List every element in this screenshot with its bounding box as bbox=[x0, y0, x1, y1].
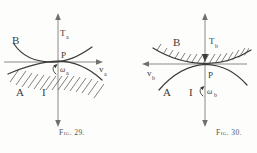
contact-point-label-29: P bbox=[61, 50, 66, 60]
figure-29-panel: B A P T a v a ω a I Fig. 29. bbox=[0, 0, 128, 153]
horizontal-axis-label-sub-29: a bbox=[104, 71, 107, 77]
angular-velocity-label-30: ω b bbox=[200, 86, 217, 98]
horizontal-axis-arrow-left-icon-30 bbox=[142, 61, 149, 67]
figure-29-drawing: B A P T a v a ω a I bbox=[0, 0, 128, 132]
omega-arrow-head-30 bbox=[200, 86, 204, 90]
vertical-axis-label-30: T b bbox=[209, 36, 218, 49]
horizontal-axis-label-sub-30: b bbox=[152, 75, 155, 81]
vertical-axis-arrow-down-icon-30 bbox=[202, 120, 208, 127]
omega-symbol-30: ω bbox=[207, 87, 212, 96]
figure-30-caption: Fig. 30. bbox=[129, 128, 257, 137]
omega-arrow-head-29 bbox=[53, 64, 57, 68]
curve-b-29 bbox=[14, 44, 92, 62]
figure-29-caption: Fig. 29. bbox=[0, 128, 136, 137]
hatched-region-30 bbox=[151, 44, 251, 70]
horizontal-axis-label-30: v b bbox=[147, 68, 155, 81]
angular-velocity-label-29: ω a bbox=[53, 64, 69, 76]
vertical-axis-arrow-up-icon bbox=[55, 13, 61, 20]
contact-point-label-30: P bbox=[208, 70, 213, 80]
curve-label-a-29: A bbox=[16, 86, 24, 98]
omega-subscript-30: b bbox=[214, 92, 217, 98]
vertical-axis-label-29: T a bbox=[60, 28, 69, 40]
vertical-axis-label-sub-30: b bbox=[215, 43, 218, 49]
curve-label-b-30: B bbox=[173, 36, 180, 48]
vertical-axis-label-sub-29: a bbox=[66, 34, 69, 40]
figure-30-panel: B A P T b v b ω b I Fig. 30. bbox=[129, 0, 257, 153]
curve-a-30 bbox=[159, 64, 247, 90]
horizontal-axis-label-29: v a bbox=[99, 64, 107, 77]
omega-symbol-29: ω bbox=[60, 65, 65, 74]
curve-label-a-30: A bbox=[163, 86, 171, 98]
curve-label-b-29: B bbox=[12, 34, 19, 46]
omega-subscript-29: a bbox=[66, 70, 69, 76]
current-symbol-29: I bbox=[42, 86, 46, 98]
figure-page: B A P T a v a ω a I Fig. 29. bbox=[0, 0, 257, 153]
vertical-axis-arrow-down-icon bbox=[55, 120, 61, 127]
current-symbol-30: I bbox=[189, 86, 193, 98]
vertical-axis-arrow-up-icon-30 bbox=[202, 13, 208, 20]
figure-30-drawing: B A P T b v b ω b I bbox=[129, 0, 257, 132]
